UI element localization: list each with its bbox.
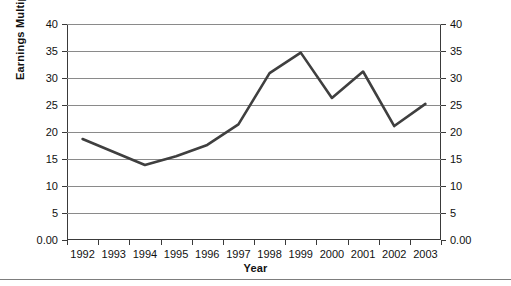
- left-y-tick-label: 10: [46, 181, 58, 192]
- x-tick-label-1996: 1996: [195, 249, 219, 260]
- y-axis-title: Earnings Multiple: [14, 0, 26, 80]
- x-tick-label-1997: 1997: [226, 249, 250, 260]
- left-y-tick-label: 0.00: [37, 235, 58, 246]
- x-tick-label-1999: 1999: [289, 249, 313, 260]
- x-tick: [410, 240, 411, 245]
- x-tick: [161, 240, 162, 245]
- x-tick: [67, 240, 68, 245]
- right-y-tick-label: 35: [450, 46, 462, 57]
- right-y-tick-label: 20: [450, 127, 462, 138]
- right-tick-25: [441, 105, 446, 106]
- right-tick-20: [441, 132, 446, 133]
- x-tick-label-1993: 1993: [102, 249, 126, 260]
- right-tick-15: [441, 159, 446, 160]
- x-tick-label-2001: 2001: [351, 249, 375, 260]
- left-y-tick-label: 20: [46, 127, 58, 138]
- right-y-tick-label: 25: [450, 100, 462, 111]
- x-tick: [285, 240, 286, 245]
- series-line-earnings-multiple: [67, 24, 441, 240]
- left-y-tick-label: 35: [46, 46, 58, 57]
- x-tick-label-1998: 1998: [257, 249, 281, 260]
- x-tick: [98, 240, 99, 245]
- x-tick: [441, 240, 442, 245]
- right-tick-30: [441, 78, 446, 79]
- chart-figure: Earnings Multiple 4035302520151050.00 40…: [0, 0, 511, 286]
- x-tick-label-2000: 2000: [320, 249, 344, 260]
- plot-area: 4035302520151050.00 4035302520151050.00 …: [67, 24, 441, 240]
- x-tick-label-1994: 1994: [133, 249, 157, 260]
- right-y-tick-label: 5: [450, 208, 456, 219]
- x-axis-title: Year: [0, 262, 511, 274]
- x-tick: [348, 240, 349, 245]
- right-y-tick-label: 40: [450, 19, 462, 30]
- x-tick-label-1992: 1992: [70, 249, 94, 260]
- x-tick: [223, 240, 224, 245]
- right-y-tick-label: 10: [450, 181, 462, 192]
- x-tick: [379, 240, 380, 245]
- right-y-tick-label: 0.00: [450, 235, 471, 246]
- right-tick-5: [441, 213, 446, 214]
- right-y-tick-label: 30: [450, 73, 462, 84]
- left-y-tick-label: 25: [46, 100, 58, 111]
- right-tick-10: [441, 186, 446, 187]
- x-tick-label-1995: 1995: [164, 249, 188, 260]
- right-tick-35: [441, 51, 446, 52]
- x-tick: [192, 240, 193, 245]
- left-y-tick-label: 30: [46, 73, 58, 84]
- right-tick-40: [441, 24, 446, 25]
- x-tick: [316, 240, 317, 245]
- left-y-tick-label: 15: [46, 154, 58, 165]
- x-tick: [254, 240, 255, 245]
- left-y-tick-label: 40: [46, 19, 58, 30]
- x-tick-label-2003: 2003: [413, 249, 437, 260]
- left-y-tick-label: 5: [52, 208, 58, 219]
- x-tick: [129, 240, 130, 245]
- right-y-tick-label: 15: [450, 154, 462, 165]
- bottom-divider: [0, 279, 511, 280]
- x-tick-label-2002: 2002: [382, 249, 406, 260]
